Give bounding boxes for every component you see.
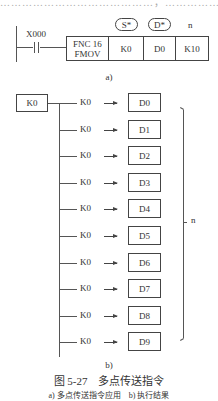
distribution-trunk: [59, 103, 60, 357]
count-label: n: [188, 20, 193, 30]
target-register-box: D8: [128, 306, 161, 325]
row-value: K0: [80, 310, 91, 320]
figure-subtitle: a) 多点传送指令应用 b) 执行结果: [0, 389, 218, 400]
arrow-icon: [104, 209, 117, 210]
source-value-box: K0: [16, 94, 48, 112]
rung-wire-left: [16, 47, 33, 48]
operand-count: K10: [175, 36, 209, 61]
arrow-icon: [104, 103, 117, 104]
source-label-oval: S*: [115, 18, 138, 31]
arrow-icon: [104, 156, 117, 157]
figure-title: 图 5-27 多点传送指令: [0, 372, 218, 388]
branch-wire: [59, 342, 77, 343]
rung-wire-right: [40, 47, 66, 48]
arrow-icon: [104, 316, 117, 317]
sublabel-a: a): [0, 72, 218, 82]
branch-wire: [59, 263, 77, 264]
cut-off-text-line: ……………………………………，……………… ……………: [0, 0, 218, 9]
target-register-box: D7: [128, 279, 161, 298]
destination-label-oval: D*: [148, 18, 171, 31]
function-box: FNC 16 FMOV: [66, 36, 109, 61]
arrow-icon: [104, 236, 117, 237]
operand-source: K0: [108, 36, 144, 61]
operand-destination: D0: [143, 36, 176, 61]
row-value: K0: [80, 283, 91, 293]
arrow-icon: [104, 263, 117, 264]
row-value: K0: [80, 97, 91, 107]
row-value: K0: [80, 203, 91, 213]
row-value: K0: [80, 257, 91, 267]
target-register-box: D5: [128, 226, 161, 245]
target-register-box: D6: [128, 253, 161, 272]
source-connector: [48, 103, 59, 104]
row-value: K0: [80, 336, 91, 346]
row-value: K0: [80, 230, 91, 240]
left-power-rail: [16, 26, 17, 62]
brace-count-label: n: [191, 215, 196, 225]
branch-wire: [59, 183, 77, 184]
target-register-box: D1: [128, 120, 161, 139]
row-value: K0: [80, 124, 91, 134]
branch-wire: [59, 103, 77, 104]
arrow-icon: [104, 183, 117, 184]
branch-wire: [59, 130, 77, 131]
function-code: FNC 16: [73, 39, 102, 49]
sublabel-b: b): [0, 360, 218, 370]
target-register-box: D4: [128, 199, 161, 218]
arrow-icon: [104, 289, 117, 290]
branch-wire: [59, 236, 77, 237]
input-contact-label: X000: [26, 29, 46, 39]
branch-wire: [59, 316, 77, 317]
target-register-box: D9: [128, 332, 161, 351]
function-mnemonic: FMOV: [74, 49, 100, 59]
arrow-icon: [104, 342, 117, 343]
branch-wire: [59, 289, 77, 290]
target-register-box: D2: [128, 146, 161, 165]
target-register-box: D0: [128, 93, 161, 112]
row-value: K0: [80, 150, 91, 160]
branch-wire: [59, 156, 77, 157]
arrow-icon: [104, 130, 117, 131]
brace-icon: [180, 107, 185, 341]
target-register-box: D3: [128, 173, 161, 192]
branch-wire: [59, 209, 77, 210]
row-value: K0: [80, 177, 91, 187]
